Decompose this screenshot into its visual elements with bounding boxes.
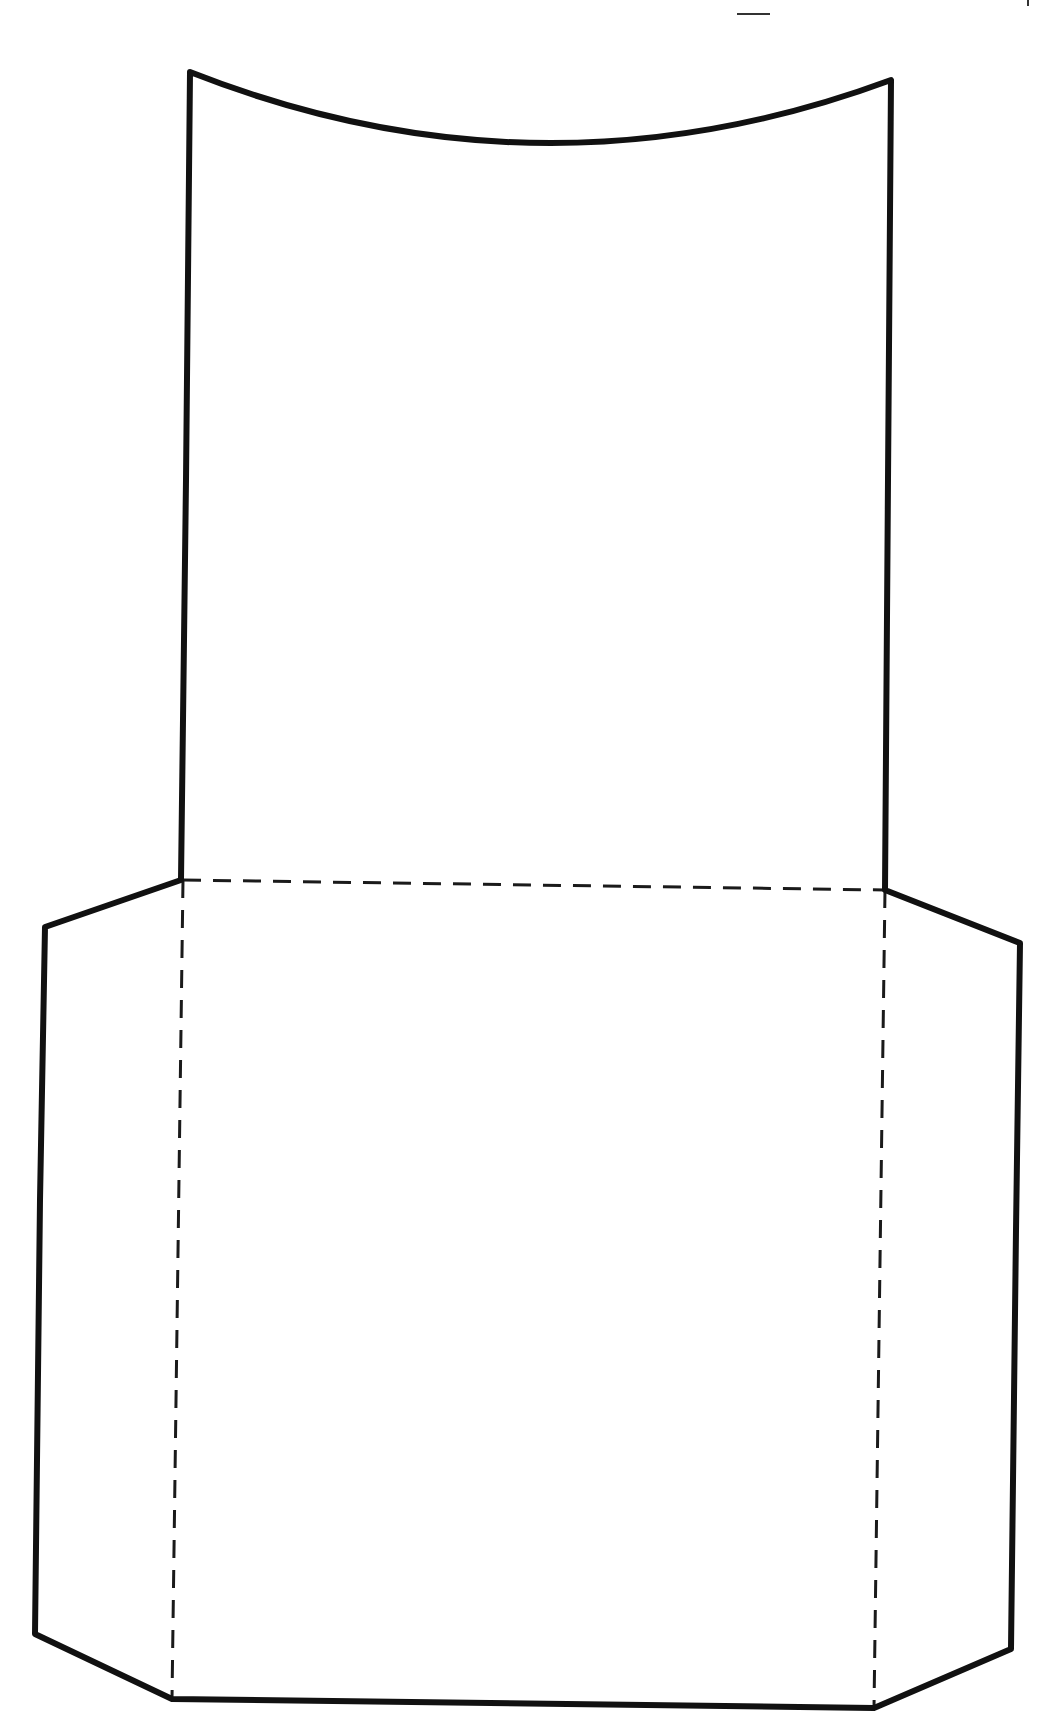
cutout-template-diagram	[0, 0, 1056, 1729]
background	[0, 0, 1056, 1729]
